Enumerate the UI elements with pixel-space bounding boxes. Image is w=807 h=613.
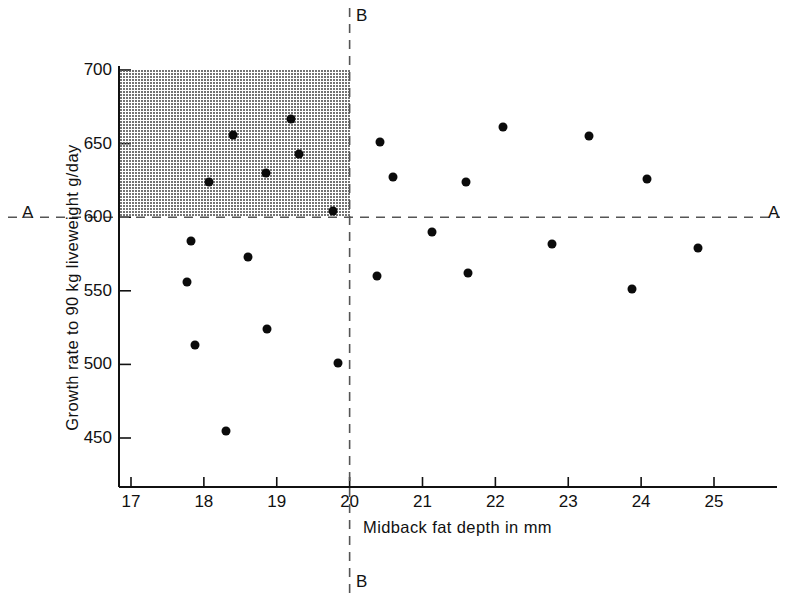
data-point	[243, 252, 252, 261]
x-tick-label: 21	[413, 492, 432, 512]
x-tick-label: 24	[632, 492, 651, 512]
reference-label-a-right: A	[768, 203, 779, 223]
x-tick-label: 22	[486, 492, 505, 512]
data-point	[221, 426, 230, 435]
data-point	[294, 149, 303, 158]
data-point	[261, 169, 270, 178]
data-point	[376, 138, 385, 147]
x-tick-label: 18	[194, 492, 213, 512]
reference-label-b-bottom: B	[356, 572, 367, 592]
data-point	[186, 236, 195, 245]
data-point	[463, 269, 472, 278]
data-point	[642, 174, 651, 183]
x-tick-label: 17	[122, 492, 141, 512]
data-point	[584, 132, 593, 141]
x-tick-label: 25	[705, 492, 724, 512]
x-tick-label: 19	[267, 492, 286, 512]
scatter-chart: 171819202122232425450500550600650700 Mid…	[0, 0, 807, 613]
y-tick-label: 700	[60, 60, 112, 80]
data-point	[628, 285, 637, 294]
data-point	[262, 325, 271, 334]
data-point	[498, 123, 507, 132]
data-point	[333, 358, 342, 367]
data-point	[373, 272, 382, 281]
x-axis-title: Midback fat depth in mm	[363, 518, 552, 537]
data-point	[389, 173, 398, 182]
x-tick-label: 20	[340, 492, 359, 512]
data-point	[548, 239, 557, 248]
y-axis-title: Growth rate to 90 kg liveweight g/day	[63, 98, 82, 478]
data-point	[427, 227, 436, 236]
data-point	[229, 130, 238, 139]
data-point	[693, 244, 702, 253]
x-tick-label: 23	[559, 492, 578, 512]
data-point	[183, 277, 192, 286]
shaded-quadrant	[120, 70, 350, 217]
data-point	[287, 114, 296, 123]
data-point	[191, 341, 200, 350]
reference-label-a-left: A	[22, 203, 33, 223]
data-point	[204, 177, 213, 186]
data-point	[462, 177, 471, 186]
reference-label-b-top: B	[356, 6, 367, 26]
data-point	[328, 207, 337, 216]
